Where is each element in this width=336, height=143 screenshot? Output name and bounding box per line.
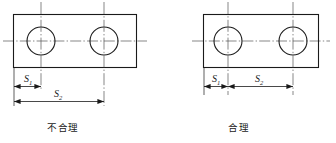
technical-drawing-figure: S1 S2 S1 S2 不合理 合理 bbox=[0, 0, 336, 143]
dimension-label-s1-right-sub: 1 bbox=[217, 79, 220, 86]
dimension-label-s1-left-sub: 1 bbox=[29, 79, 32, 86]
caption-left-panel: 不合理 bbox=[47, 120, 79, 134]
caption-right-panel: 合理 bbox=[228, 120, 249, 134]
